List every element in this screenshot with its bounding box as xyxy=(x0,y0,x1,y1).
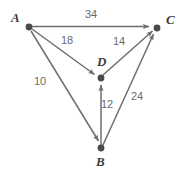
edge-b-to-c xyxy=(103,34,154,145)
node-label-a: A xyxy=(11,11,20,24)
node-d-dot[interactable] xyxy=(98,75,105,82)
edge-weight-a-d: 18 xyxy=(61,35,73,46)
node-a-dot[interactable] xyxy=(26,24,33,31)
edge-weight-d-c: 14 xyxy=(113,36,125,47)
edge-weight-b-d: 12 xyxy=(101,99,113,110)
node-b-dot[interactable] xyxy=(98,145,105,152)
edge-weight-a-b: 10 xyxy=(34,76,46,87)
node-label-c: C xyxy=(166,13,175,26)
node-label-b: B xyxy=(96,155,105,168)
edge-weight-a-c: 34 xyxy=(85,9,97,20)
node-label-d: D xyxy=(97,55,106,68)
directed-weighted-graph-figure: A C D B 34 18 10 14 12 24 xyxy=(0,0,183,177)
edge-layer xyxy=(31,27,154,146)
edge-weight-b-c: 24 xyxy=(131,91,143,102)
graph-canvas xyxy=(0,0,183,177)
node-c-dot[interactable] xyxy=(154,25,161,32)
